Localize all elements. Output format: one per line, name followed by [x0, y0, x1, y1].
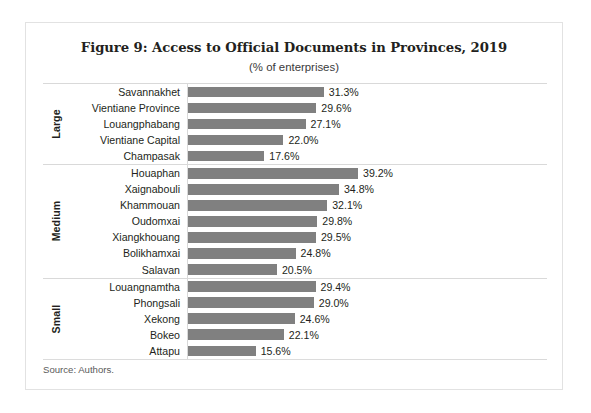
bar-value-label: 27.1% — [311, 118, 341, 130]
bar — [188, 168, 358, 179]
bar — [188, 103, 316, 114]
bar-zone: 32.1% — [187, 197, 547, 213]
group-label-medium: Medium — [43, 165, 69, 277]
bar — [188, 151, 264, 162]
bar-value-label: 20.5% — [282, 264, 312, 276]
bar — [188, 119, 306, 130]
bar-zone: 27.1% — [187, 116, 547, 132]
bar-value-label: 22.0% — [288, 134, 318, 146]
bar-row: Houaphan39.2% — [69, 165, 547, 181]
source-divider — [43, 359, 530, 360]
category-label: Xekong — [69, 313, 187, 325]
bar-row: Louangnamtha29.4% — [69, 279, 547, 295]
bar-value-label: 22.1% — [289, 329, 319, 341]
bar-value-label: 17.6% — [269, 150, 299, 162]
category-label: Vientiane Province — [69, 102, 187, 114]
group-label-small: Small — [43, 279, 69, 359]
bar-value-label: 29.8% — [322, 215, 352, 227]
bar — [188, 264, 277, 275]
title-block: Figure 9: Access to Official Documents i… — [26, 40, 562, 74]
bar — [188, 297, 314, 308]
bar-value-label: 29.4% — [321, 281, 351, 293]
bar — [188, 346, 256, 357]
bar-row: Vientiane Capital22.0% — [69, 132, 547, 148]
bar — [188, 200, 327, 211]
category-label: Louangnamtha — [69, 281, 187, 293]
bar-zone: 17.6% — [187, 148, 547, 164]
bar-zone: 39.2% — [187, 165, 547, 181]
bar-value-label: 24.6% — [300, 313, 330, 325]
bar-zone: 15.6% — [187, 343, 547, 359]
bar — [188, 281, 316, 292]
category-label: Xiangkhouang — [69, 231, 187, 243]
category-label: Louangphabang — [69, 118, 187, 130]
bar-zone: 22.0% — [187, 132, 547, 148]
bar-rows: Houaphan39.2%Xaignabouli34.8%Khammouan32… — [69, 165, 547, 277]
bar-row: Xiangkhouang29.5% — [69, 229, 547, 245]
bar — [188, 248, 296, 259]
bar — [188, 87, 324, 98]
group-label-text: Small — [50, 304, 62, 333]
bar-zone: 31.3% — [187, 84, 547, 100]
bar-group-large: LargeSavannakhet31.3%Vientiane Province2… — [43, 83, 547, 164]
bar-group-small: SmallLouangnamtha29.4%Phongsali29.0%Xeko… — [43, 278, 547, 360]
category-label: Vientiane Capital — [69, 134, 187, 146]
bar-value-label: 24.8% — [301, 247, 331, 259]
category-label: Attapu — [69, 345, 187, 357]
bar-row: Champasak17.6% — [69, 148, 547, 164]
group-label-text: Large — [50, 109, 62, 138]
bar-value-label: 31.3% — [329, 86, 359, 98]
bar — [188, 329, 284, 340]
bar-zone: 29.5% — [187, 229, 547, 245]
bar-rows: Savannakhet31.3%Vientiane Province29.6%L… — [69, 84, 547, 164]
bar-row: Khammouan32.1% — [69, 197, 547, 213]
category-label: Phongsali — [69, 297, 187, 309]
bar-row: Bokeo22.1% — [69, 327, 547, 343]
bar-zone: 20.5% — [187, 262, 547, 278]
bar-row: Bolikhamxai24.8% — [69, 245, 547, 261]
bar-zone: 29.0% — [187, 295, 547, 311]
group-label-large: Large — [43, 84, 69, 164]
bar-row: Phongsali29.0% — [69, 295, 547, 311]
category-label: Bokeo — [69, 329, 187, 341]
source-note: Source: Authors. — [43, 364, 114, 375]
bar — [188, 216, 317, 227]
bar-row: Attapu15.6% — [69, 343, 547, 359]
bar-zone: 29.4% — [187, 279, 547, 295]
bar-row: Salavan20.5% — [69, 262, 547, 278]
bar-row: Vientiane Province29.6% — [69, 100, 547, 116]
category-label: Champasak — [69, 150, 187, 162]
bar-value-label: 39.2% — [363, 167, 393, 179]
category-label: Khammouan — [69, 199, 187, 211]
bar-rows: Louangnamtha29.4%Phongsali29.0%Xekong24.… — [69, 279, 547, 359]
bar-zone: 24.8% — [187, 245, 547, 261]
bar-row: Xekong24.6% — [69, 311, 547, 327]
bar-value-label: 29.0% — [319, 297, 349, 309]
category-label: Oudomxai — [69, 215, 187, 227]
bar-row: Oudomxai29.8% — [69, 213, 547, 229]
bar — [188, 184, 339, 195]
bar-row: Xaignabouli34.8% — [69, 181, 547, 197]
bar-value-label: 34.8% — [344, 183, 374, 195]
bar-row: Savannakhet31.3% — [69, 84, 547, 100]
chart-subtitle: (% of enterprises) — [26, 60, 562, 74]
bar-zone: 34.8% — [187, 181, 547, 197]
bar — [188, 232, 316, 243]
figure-frame: Figure 9: Access to Official Documents i… — [25, 22, 563, 390]
category-label: Bolikhamxai — [69, 247, 187, 259]
bar-chart-plot-area: LargeSavannakhet31.3%Vientiane Province2… — [43, 83, 547, 356]
category-label: Xaignabouli — [69, 183, 187, 195]
bar-value-label: 32.1% — [332, 199, 362, 211]
category-label: Savannakhet — [69, 86, 187, 98]
bar-value-label: 15.6% — [261, 345, 291, 357]
bar-group-medium: MediumHouaphan39.2%Xaignabouli34.8%Khamm… — [43, 164, 547, 277]
bar-zone: 24.6% — [187, 311, 547, 327]
bar — [188, 135, 283, 146]
group-label-text: Medium — [50, 201, 62, 242]
page-title: Figure 9: Access to Official Documents i… — [26, 40, 562, 56]
bar — [188, 313, 295, 324]
bar-value-label: 29.6% — [321, 102, 351, 114]
bar-zone: 22.1% — [187, 327, 547, 343]
bar-zone: 29.6% — [187, 100, 547, 116]
bar-zone: 29.8% — [187, 213, 547, 229]
